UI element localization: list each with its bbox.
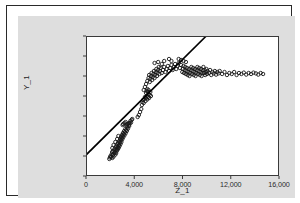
data-point [232,70,235,73]
data-point [163,59,166,62]
y-axis-title: Y_1 [22,53,31,113]
figure-outer-frame: 1,0002,0003,0004,0005,0006,0007,0008,000… [6,5,292,196]
scatter-plot-svg [87,37,280,177]
regression-line [87,37,205,154]
figure-container: 1,0002,0003,0004,0005,0006,0007,0008,000… [0,0,300,203]
data-point-markers [108,57,265,160]
data-point [170,59,173,62]
data-point [140,107,143,110]
x-axis-title: Z_1 [86,186,279,195]
data-point [153,61,156,64]
chart-canvas: 1,0002,0003,0004,0005,0006,0007,0008,000… [18,16,295,198]
data-point [160,62,163,65]
plot-area [86,36,279,176]
data-point [156,60,159,63]
data-point [223,70,226,73]
